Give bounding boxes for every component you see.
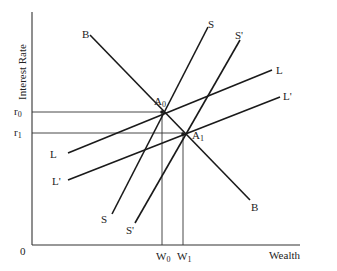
- l-right-label: L: [276, 64, 283, 76]
- point-a1: [181, 132, 185, 136]
- r0-label: r0: [14, 105, 22, 119]
- b-bottom-label: B: [251, 201, 258, 213]
- l-prime-right-label: L': [283, 90, 292, 102]
- x-axis-label: Wealth: [269, 249, 300, 261]
- point-a0: [160, 110, 164, 114]
- b-top-label: B: [82, 28, 89, 40]
- a1-label: A1: [192, 129, 204, 143]
- r1-label: r1: [14, 126, 22, 140]
- economic-diagram: Interest Rate Wealth 0 r0 r1 W0 W1 A0 A1…: [0, 0, 337, 271]
- w1-label: W1: [177, 250, 191, 264]
- s-prime-top-label: S': [235, 29, 243, 41]
- s-bottom-label: S: [101, 213, 107, 225]
- origin-label: 0: [20, 245, 26, 257]
- y-axis-label: Interest Rate: [16, 44, 28, 100]
- s-top-label: S: [208, 18, 214, 30]
- w0-label: W0: [156, 250, 170, 264]
- l-prime-left-label: L': [52, 175, 61, 187]
- l-left-label: L: [50, 148, 57, 160]
- a0-label: A0: [154, 95, 166, 109]
- s-prime-bottom-label: S': [126, 224, 134, 236]
